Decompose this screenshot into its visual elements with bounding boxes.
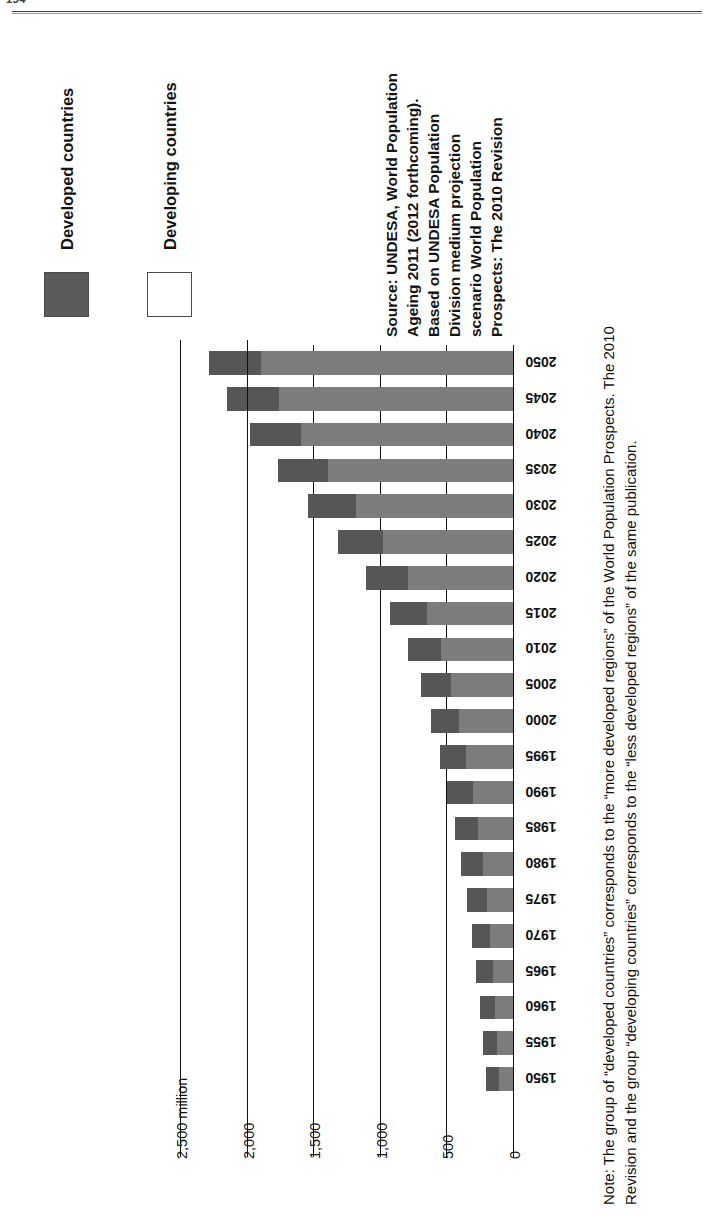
tick-label-2000: 2,000 (241, 1123, 257, 1159)
bar-segment-developed-1975 (467, 888, 487, 912)
bar-segment-developing-2010 (441, 638, 513, 662)
bar-segment-developing-1960 (495, 996, 513, 1020)
axis-extension-rule (446, 1097, 447, 1157)
population-ageing-stacked-bar-chart (180, 345, 513, 1097)
bar-segment-developing-2020 (408, 566, 513, 590)
bar-segment-developed-2010 (408, 638, 441, 662)
year-label-1965: 1965 (520, 963, 562, 979)
gridline-0 (513, 345, 514, 1097)
axis-extension-rule (313, 1097, 314, 1157)
outer-axis-rule-2000 (247, 340, 248, 1152)
bar-segment-developed-1950 (486, 1067, 499, 1091)
source-line-2: Ageing 2011 (2012 forthcoming). (404, 98, 422, 337)
year-label-1980: 1980 (520, 855, 562, 871)
legend-label-developing: Developing countries (161, 82, 180, 250)
tick-label-500: 500 (440, 1135, 456, 1159)
bar-group-2005 (180, 673, 513, 697)
bar-group-1975 (180, 888, 513, 912)
year-label-1975: 1975 (520, 891, 562, 907)
bar-segment-developing-2050 (261, 351, 513, 375)
tick-label-0: 0 (507, 1151, 523, 1159)
year-label-2010: 2010 (520, 640, 562, 656)
bar-segment-developing-1950 (499, 1067, 513, 1091)
axis-extension-rule (513, 1097, 514, 1157)
bar-group-2010 (180, 638, 513, 662)
bar-segment-developing-1970 (490, 924, 513, 948)
tick-label-1000: 1,000 (374, 1123, 390, 1159)
bar-segment-developing-1965 (493, 960, 513, 984)
bar-segment-developed-1980 (461, 852, 483, 876)
bar-group-2040 (180, 423, 513, 447)
bar-group-1950 (180, 1067, 513, 1091)
year-label-1985: 1985 (520, 819, 562, 835)
header-rule-secondary (12, 13, 702, 14)
bar-segment-developed-1970 (472, 924, 490, 948)
bar-segment-developing-2025 (383, 530, 513, 554)
axis-extension-rule (380, 1097, 381, 1157)
year-label-1950: 1950 (520, 1070, 562, 1086)
bar-segment-developing-1995 (466, 745, 513, 769)
page-number: 154 (6, 0, 26, 5)
year-label-2050: 2050 (520, 354, 562, 370)
bar-segment-developed-1990 (447, 781, 472, 805)
bar-segment-developed-2025 (338, 530, 383, 554)
bar-segment-developing-2005 (451, 673, 513, 697)
source-line-1: Source: UNDESA, World Population (383, 73, 401, 337)
bar-group-2020 (180, 566, 513, 590)
year-label-2015: 2015 (520, 605, 562, 621)
bar-group-1970 (180, 924, 513, 948)
bar-group-1965 (180, 960, 513, 984)
bar-group-2030 (180, 494, 513, 518)
bar-segment-developed-1995 (440, 745, 467, 769)
bar-segment-developed-2040 (250, 423, 301, 447)
outer-axis-rule-2500 (180, 340, 181, 1152)
note-line-2: Revision and the group “developing count… (622, 440, 639, 1205)
source-line-3: Based on UNDESA Population (425, 114, 443, 337)
bar-segment-developing-2045 (279, 387, 513, 411)
header-rule (12, 11, 702, 12)
bar-segment-developing-2040 (301, 423, 513, 447)
bar-segment-developing-1955 (497, 1031, 513, 1055)
bar-segment-developing-1980 (483, 852, 513, 876)
year-label-2030: 2030 (520, 497, 562, 513)
year-label-1960: 1960 (520, 998, 562, 1014)
source-line-4: Division medium projection (446, 134, 464, 337)
bar-segment-developed-2050 (209, 351, 261, 375)
bar-group-2000 (180, 709, 513, 733)
bar-group-1980 (180, 852, 513, 876)
bar-group-1985 (180, 817, 513, 841)
bar-group-1990 (180, 781, 513, 805)
bar-segment-developed-2005 (421, 673, 451, 697)
source-line-6: Prospects: The 2010 Revision (488, 117, 506, 337)
bar-segment-developed-1955 (483, 1031, 497, 1055)
year-label-2020: 2020 (520, 569, 562, 585)
bar-segment-developed-1960 (480, 996, 495, 1020)
bar-segment-developing-1985 (478, 817, 513, 841)
bar-segment-developed-2045 (227, 387, 279, 411)
bar-group-1995 (180, 745, 513, 769)
legend-swatch-developed (44, 272, 89, 317)
year-label-2025: 2025 (520, 533, 562, 549)
bar-segment-developing-1990 (473, 781, 513, 805)
bar-segment-developed-1965 (476, 960, 493, 984)
document-page: 154 Developed countries Developing count… (0, 0, 709, 1216)
year-label-2045: 2045 (520, 390, 562, 406)
year-label-1990: 1990 (520, 784, 562, 800)
bar-segment-developed-2015 (390, 602, 427, 626)
bar-segment-developing-1975 (487, 888, 513, 912)
year-label-1970: 1970 (520, 927, 562, 943)
tick-label-2500million: 2,500 million (174, 1078, 190, 1159)
bar-group-2025 (180, 530, 513, 554)
bar-segment-developed-2030 (308, 494, 356, 518)
source-line-5: scenario World Population (467, 141, 485, 337)
year-label-2005: 2005 (520, 676, 562, 692)
year-label-1955: 1955 (520, 1034, 562, 1050)
bar-segment-developed-1985 (455, 817, 479, 841)
bar-segment-developing-2035 (328, 459, 513, 483)
bar-group-2015 (180, 602, 513, 626)
tick-label-1500: 1,500 (307, 1123, 323, 1159)
year-label-1995: 1995 (520, 748, 562, 764)
bar-group-2045 (180, 387, 513, 411)
year-label-2035: 2035 (520, 461, 562, 477)
bar-segment-developing-2030 (356, 494, 513, 518)
